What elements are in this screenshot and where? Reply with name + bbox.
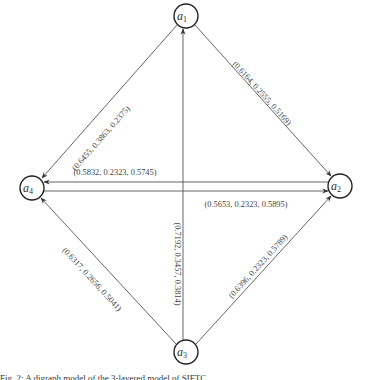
node-a2-sub: 2 — [337, 185, 341, 194]
edge-a3-a2: (0.6396, 0.2323, 0.5789) — [196, 196, 331, 344]
node-a1: a1 — [174, 4, 198, 28]
node-a3-sub: 3 — [183, 351, 187, 360]
node-a2: a2 — [328, 174, 352, 198]
edge-label-a3-a4: (0.6317, 0.2656, 0.5041) — [60, 246, 123, 313]
edge-label-a3-a1: (0.7192, 0.3457, 0.3814) — [173, 222, 182, 305]
edge-a2-a4: (0.5832, 0.2323, 0.5745) — [44, 168, 328, 182]
edge-a3-a4: (0.6317, 0.2656, 0.5041) — [41, 198, 177, 345]
edge-a3-a1: (0.7192, 0.3457, 0.3814) — [173, 29, 183, 340]
edge-label-a1-a2: (0.6164, 0.2555, 0.5169) — [231, 59, 293, 127]
node-a4: a4 — [20, 176, 44, 200]
edge-a1-a2: (0.6164, 0.2555, 0.5169) — [195, 25, 331, 176]
node-a1-sub: 1 — [183, 15, 187, 24]
node-a4-sub: 4 — [29, 187, 33, 196]
edge-a1-a4: (0.6455, 0.3863, 0.2375) — [42, 25, 177, 178]
edge-label-a3-a2: (0.6396, 0.2323, 0.5789) — [227, 232, 290, 300]
node-a3: a3 — [174, 340, 198, 364]
edge-label-a1-a4: (0.6455, 0.3863, 0.2375) — [70, 104, 132, 172]
edge-label-a2-a4: (0.5832, 0.2323, 0.5745) — [73, 168, 156, 177]
figure-caption: Fig. 2: A digraph model of the 3-layered… — [0, 369, 367, 380]
digraph-figure: (0.6455, 0.3863, 0.2375) (0.6164, 0.2555… — [0, 0, 367, 380]
edge-label-a4-a2: (0.5653, 0.2323, 0.5895) — [204, 200, 287, 209]
edge-a4-a2: (0.5653, 0.2323, 0.5895) — [44, 191, 328, 209]
